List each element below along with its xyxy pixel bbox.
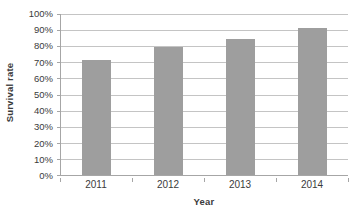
y-axis-title-text: Survival rate — [5, 63, 16, 123]
bar-slot — [133, 14, 205, 175]
y-axis-tick-label: 30% — [34, 123, 53, 133]
x-axis-tick-label: 2011 — [60, 178, 132, 194]
bar-series — [61, 14, 348, 175]
x-axis-tick-label: 2013 — [204, 178, 276, 194]
bar[interactable] — [154, 47, 183, 175]
y-axis-tick-label: 60% — [34, 74, 53, 84]
bar-slot — [276, 14, 348, 175]
x-axis-tick-label: 2012 — [132, 178, 204, 194]
y-axis-tick-label: 20% — [34, 139, 53, 149]
y-axis-tick-label: 90% — [34, 25, 53, 35]
bar-slot — [205, 14, 277, 175]
x-axis-tick-labels: 2011201220132014 — [60, 178, 348, 194]
y-axis-tick-label: 80% — [34, 42, 53, 52]
y-axis-tick-label: 70% — [34, 58, 53, 68]
bar[interactable] — [298, 28, 327, 175]
bar[interactable] — [226, 39, 255, 175]
y-axis-tick-label: 100% — [29, 9, 53, 19]
y-axis-tick-labels: 0%10%20%30%40%50%60%70%80%90%100% — [18, 14, 56, 176]
bar-slot — [61, 14, 133, 175]
y-axis-tick-label: 40% — [34, 106, 53, 116]
x-axis-tick-label: 2014 — [276, 178, 348, 194]
y-axis-tick-mark — [57, 175, 61, 176]
x-axis-tick-mark — [348, 178, 349, 182]
x-axis-title: Year — [60, 196, 348, 207]
bar-chart: Survival rate 0%10%20%30%40%50%60%70%80%… — [0, 0, 358, 219]
y-axis-tick-label: 0% — [39, 171, 53, 181]
x-axis-tick-mark — [276, 178, 277, 182]
bar[interactable] — [82, 60, 111, 175]
plot-area — [60, 14, 348, 176]
y-axis-title: Survival rate — [0, 0, 20, 185]
x-axis-tick-mark — [132, 178, 133, 182]
x-axis-tick-mark — [204, 178, 205, 182]
y-axis-tick-label: 50% — [34, 90, 53, 100]
y-axis-tick-label: 10% — [34, 155, 53, 165]
x-axis-tick-mark — [60, 178, 61, 182]
